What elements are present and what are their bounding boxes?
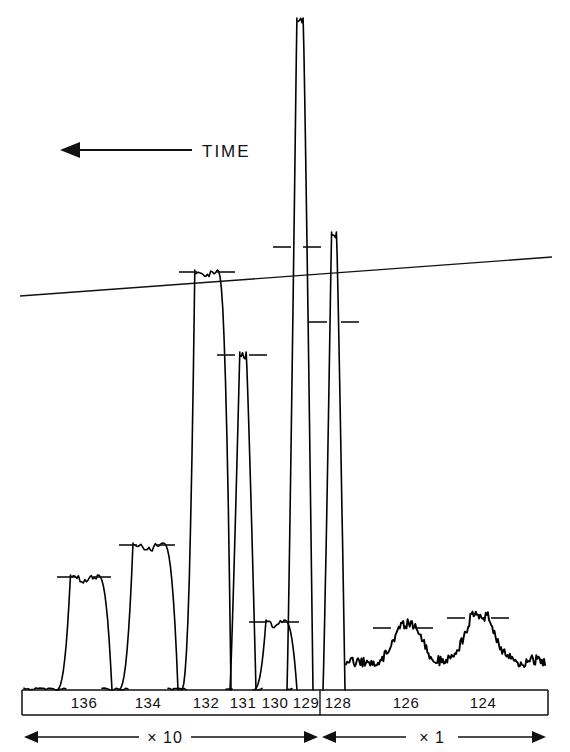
axis-tick-label-129: 129 <box>293 694 320 711</box>
peak-trace-128 <box>323 232 345 690</box>
sensitivity-range-0: × 10 <box>24 729 318 746</box>
sensitivity-range-1: × 1 <box>322 729 546 746</box>
axis-tick-label-132: 132 <box>193 694 220 711</box>
axis-tick-label-131: 131 <box>230 694 257 711</box>
range-arrow-left <box>24 731 38 743</box>
time-label: TIME <box>202 142 251 161</box>
peak-trace-130 <box>253 620 297 690</box>
peak-trace-134 <box>118 543 178 690</box>
peak-trace-129 <box>287 18 313 690</box>
spectrum-chart: TIME 136134132131130129128126124 × 10× 1 <box>0 0 570 752</box>
axis-tick-label-128: 128 <box>325 694 352 711</box>
axis-tick-label-126: 126 <box>393 694 420 711</box>
axis-tick-label-130: 130 <box>262 694 289 711</box>
range-arrow-left <box>322 731 336 743</box>
baseline-drift-line <box>20 257 552 296</box>
peak-height-tick-group <box>57 247 509 628</box>
spectrum-trace-group <box>24 18 545 690</box>
range-arrow-right <box>304 731 318 743</box>
time-arrow <box>60 142 192 158</box>
peak-trace-131 <box>230 352 256 690</box>
axis-tick-label-group: 136134132131130129128126124 <box>71 694 497 711</box>
sensitivity-range-group: × 10× 1 <box>24 729 546 746</box>
sensitivity-label: × 10 <box>147 729 183 746</box>
axis-tick-label-124: 124 <box>470 694 497 711</box>
range-arrow-right <box>532 731 546 743</box>
chart-root: TIME 136134132131130129128126124 × 10× 1 <box>0 0 570 752</box>
peak-trace-132 <box>181 270 231 690</box>
peak-trace-136 <box>56 575 112 690</box>
axis-tick-label-134: 134 <box>135 694 162 711</box>
axis-tick-label-136: 136 <box>71 694 98 711</box>
sensitivity-label: × 1 <box>419 729 445 746</box>
noisy-baseline-right <box>346 612 545 668</box>
